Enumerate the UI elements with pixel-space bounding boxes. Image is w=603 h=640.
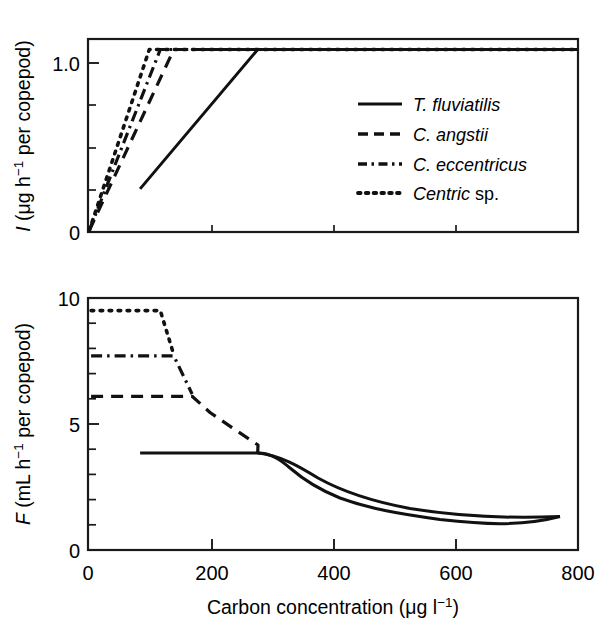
svg-text:F (mL h−1 per copepod): F (mL h−1 per copepod) <box>11 323 35 525</box>
legend-item-t-fluviatilis: T. fluviatilis <box>358 95 500 115</box>
top-ylabel-open: ( <box>12 214 34 226</box>
bottom-curve-t-fluviatilis <box>258 453 560 517</box>
bottom-ylabel-rest: per copepod) <box>12 323 34 443</box>
xaxis-title-exp: −1 <box>437 595 452 610</box>
legend: T. fluviatilis C. angstii C. eccentricus <box>358 95 527 204</box>
svg-text:I (μg h−1 per copepod): I (μg h−1 per copepod) <box>11 40 35 231</box>
legend-item-c-angstii: C. angstii <box>358 125 489 145</box>
top-yaxis-title: I (μg h−1 per copepod) <box>11 40 35 231</box>
bottom-ytick-label-5: 5 <box>69 414 80 436</box>
xaxis-title-main: Carbon concentration ( <box>207 596 406 618</box>
bottom-yaxis-title: F (mL h−1 per copepod) <box>11 323 35 525</box>
top-curve-c-angstii <box>89 50 578 231</box>
bottom-ylabel-open: (mL h <box>12 459 34 514</box>
figure-container: 1.0 0 I (μg h−1 per copepod) T. fluviati… <box>0 0 603 640</box>
legend-item-centric-sp: Centric sp. <box>358 184 499 204</box>
xtick-label-400: 400 <box>317 562 350 584</box>
bottom-curve-centric-sp <box>91 311 174 355</box>
legend-item-c-eccentricus: C. eccentricus <box>358 155 527 175</box>
xaxis-title-unit: μg l <box>405 596 437 618</box>
bottom-curve-t-fluviatilis-segment <box>140 453 560 524</box>
top-ytick-label-0: 0 <box>69 222 80 244</box>
top-ylabel-unit: μg h <box>12 176 34 214</box>
top-plot-frame <box>88 39 578 232</box>
bottom-ytick-label-0: 0 <box>69 540 80 562</box>
bottom-curve-c-eccentricus <box>91 356 192 394</box>
bottom-ytick-label-10: 10 <box>58 288 80 310</box>
xaxis-title: Carbon concentration (μg l−1) <box>207 595 459 619</box>
xaxis-title-close: ) <box>453 596 460 618</box>
panel-bottom: 10 5 0 F (mL h−1 per copepod) 0 200 400 <box>11 288 595 618</box>
top-ylabel-exp: −1 <box>11 161 26 176</box>
bottom-curve-c-angstii <box>91 396 258 452</box>
xtick-label-200: 200 <box>195 562 228 584</box>
legend-label-0: T. fluviatilis <box>413 95 500 115</box>
xtick-label-800: 800 <box>561 562 594 584</box>
xtick-label-0: 0 <box>82 562 93 584</box>
bottom-plot-frame <box>88 298 578 550</box>
figure-svg: 1.0 0 I (μg h−1 per copepod) T. fluviati… <box>0 0 603 640</box>
legend-label-3: Centric sp. <box>413 184 499 204</box>
panel-top: 1.0 0 I (μg h−1 per copepod) T. fluviati… <box>11 39 579 244</box>
legend-label-1: C. angstii <box>413 125 489 145</box>
top-ytick-label-1: 1.0 <box>52 53 80 75</box>
xtick-label-600: 600 <box>439 562 472 584</box>
legend-label-2: C. eccentricus <box>413 155 527 175</box>
top-ylabel-rest: per copepod) <box>12 40 34 160</box>
bottom-ylabel-exp: −1 <box>11 443 26 458</box>
